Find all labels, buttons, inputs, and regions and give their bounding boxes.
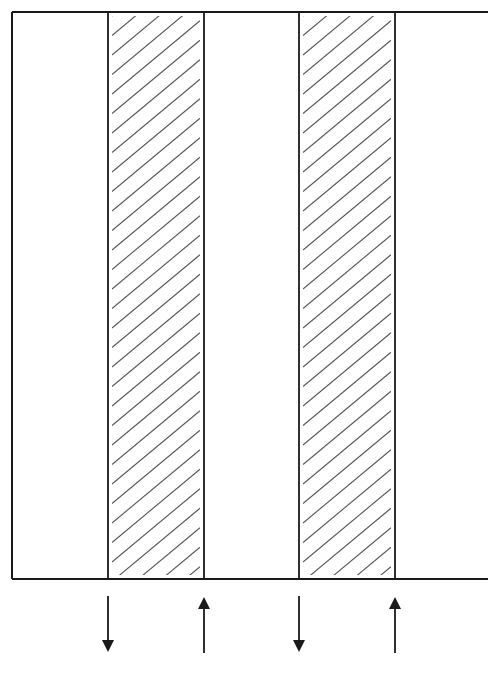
arrow-down-icon	[102, 596, 114, 652]
hatch-layer	[112, 0, 391, 659]
arrow-up-icon	[198, 597, 210, 653]
frame	[12, 12, 488, 579]
diagram-canvas	[0, 0, 488, 688]
hatched-channel-2	[303, 0, 391, 659]
hatched-channel-1	[112, 0, 200, 659]
arrow-up-icon	[389, 597, 401, 653]
arrow-down-icon	[293, 596, 305, 652]
flow-arrows	[102, 596, 401, 653]
